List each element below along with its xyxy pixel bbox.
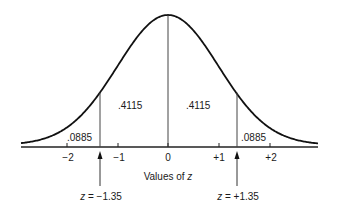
tick-label-pos1: +1 bbox=[213, 152, 225, 163]
tick-label-neg1: −1 bbox=[113, 152, 125, 163]
normal-curve-diagram: −2 −1 0 +1 +2 Values of z .0885 .4115 .4… bbox=[0, 0, 338, 211]
tick-label-0: 0 bbox=[165, 152, 171, 163]
marker-neg-eq: = bbox=[85, 191, 96, 202]
arrow-icon-left bbox=[98, 151, 103, 186]
right-tail-area-label: .0885 bbox=[241, 132, 266, 143]
right-center-area-label: .4115 bbox=[186, 100, 211, 111]
axis-title-var: z bbox=[186, 171, 192, 182]
left-center-area-label: .4115 bbox=[118, 100, 143, 111]
left-tail-area-label: .0885 bbox=[67, 132, 92, 143]
marker-label-neg: z = −1.35 bbox=[79, 191, 122, 202]
marker-pos-eq: = bbox=[222, 191, 233, 202]
tick-label-pos2: +2 bbox=[265, 152, 277, 163]
marker-neg-value: −1.35 bbox=[97, 191, 123, 202]
arrow-icon-right bbox=[235, 151, 240, 186]
bell-curve bbox=[21, 15, 318, 143]
axis-title-prefix: Values of bbox=[144, 171, 188, 182]
tick-label-neg2: −2 bbox=[62, 152, 74, 163]
marker-pos-value: +1.35 bbox=[234, 191, 260, 202]
marker-label-pos: z = +1.35 bbox=[216, 191, 259, 202]
axis-title: Values of z bbox=[144, 171, 193, 182]
